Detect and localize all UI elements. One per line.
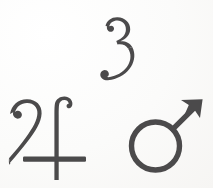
- glyph-page: 3 ♃ ♂: [0, 0, 213, 188]
- jupiter-symbol-glyph: ♃: [8, 94, 88, 184]
- jupiter-icon: [8, 94, 88, 184]
- numeral-three-glyph: 3: [96, 14, 138, 84]
- mars-symbol-glyph: ♂: [126, 88, 208, 180]
- mars-icon: [126, 88, 208, 180]
- numeral-three-icon: [96, 14, 138, 84]
